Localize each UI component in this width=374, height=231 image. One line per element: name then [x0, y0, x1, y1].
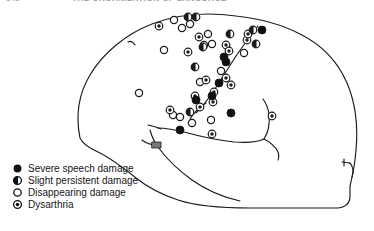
marker-severe	[227, 109, 235, 117]
sylvian-ascending-ramus	[264, 139, 279, 160]
legend-item-dysarthria: Dysarthria	[12, 198, 138, 210]
marker-disappearing	[204, 30, 211, 37]
occipital-notch-curve	[350, 163, 353, 177]
brain-lesion-figure: 148 THE ORGANIZATION OF LANGUAGE	[0, 0, 374, 231]
open-circle-icon	[12, 187, 23, 198]
marker-disappearing	[207, 116, 214, 123]
legend: Severe speech damage Slight persistent d…	[12, 162, 138, 210]
lesion-markers-group	[135, 13, 275, 138]
marker-disappearing	[176, 113, 183, 120]
vertical-split-circle-icon	[12, 175, 23, 186]
legend-label-disappearing: Disappearing damage	[28, 187, 126, 198]
marker-severe	[222, 58, 230, 66]
marker-severe	[176, 126, 184, 134]
marker-disappearing	[178, 24, 185, 31]
dotted-circle-icon	[12, 199, 23, 210]
marker-disappearing	[170, 16, 177, 23]
marker-disappearing	[217, 67, 224, 74]
marker-disappearing	[135, 89, 142, 96]
superior-notch	[128, 41, 135, 45]
filled-circle-icon	[12, 163, 23, 174]
sylvian-posterior-ramus	[263, 99, 269, 139]
legend-item-severe: Severe speech damage	[12, 162, 138, 174]
occipital-notch	[342, 159, 350, 166]
marker-severe	[215, 79, 223, 87]
marker-disappearing	[240, 49, 247, 56]
marker-disappearing	[160, 46, 167, 53]
marker-disappearing	[188, 119, 195, 126]
operculum-sulcus	[148, 125, 161, 129]
marker-disappearing	[186, 20, 193, 27]
marker-disappearing	[208, 40, 215, 47]
legend-item-disappearing: Disappearing damage	[12, 186, 138, 198]
marker-severe	[192, 96, 200, 104]
marker-severe	[258, 26, 266, 34]
legend-label-severe: Severe speech damage	[28, 163, 134, 174]
legend-label-dysarthria: Dysarthria	[28, 199, 74, 210]
legend-label-slight: Slight persistent damage	[28, 175, 138, 186]
marker-severe	[208, 92, 216, 100]
inferior-frontal-mark	[152, 142, 161, 148]
markers-dysarthria	[155, 22, 276, 138]
legend-item-slight: Slight persistent damage	[12, 174, 138, 186]
